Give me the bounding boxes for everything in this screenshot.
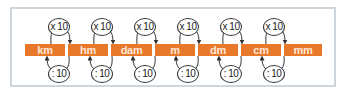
unit-cm: cm: [241, 44, 281, 56]
divide-10-label: : 10: [48, 65, 70, 83]
divide-10-label: : 10: [220, 65, 242, 83]
divide-10-label: : 10: [177, 65, 199, 83]
unit-m: m: [155, 44, 195, 56]
unit-hm: hm: [68, 44, 108, 56]
unit-km: km: [25, 44, 65, 56]
divide-10-label: : 10: [263, 65, 285, 83]
multiply-10-label: x 10: [91, 18, 113, 36]
divide-10-label: : 10: [91, 65, 113, 83]
multiply-10-label: x 10: [134, 18, 156, 36]
multiply-10-label: x 10: [263, 18, 285, 36]
unit-mm: mm: [284, 44, 322, 56]
multiply-10-label: x 10: [48, 18, 70, 36]
divide-10-label: : 10: [134, 65, 156, 83]
multiply-10-label: x 10: [220, 18, 242, 36]
unit-dm: dm: [198, 44, 238, 56]
multiply-10-label: x 10: [177, 18, 199, 36]
unit-dam: dam: [111, 44, 152, 56]
